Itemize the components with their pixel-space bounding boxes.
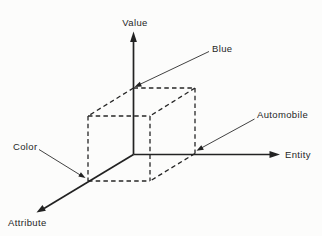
- labels: Value Entity Attribute Blue Automobile C…: [8, 17, 311, 228]
- automobile-callout-arrowhead: [197, 145, 204, 151]
- color-callout-line: [39, 150, 82, 176]
- cube-dashed-edges: [88, 88, 195, 181]
- blue-callout-arrowhead: [135, 82, 142, 87]
- dashed-cube: [88, 88, 195, 181]
- attribute-axis-label: Attribute: [8, 217, 47, 228]
- axes: [37, 32, 281, 213]
- value-axis-label: Value: [122, 17, 147, 28]
- automobile-callout-line: [200, 119, 255, 149]
- eav-axes-diagram: Value Entity Attribute Blue Automobile C…: [0, 0, 322, 236]
- blue-callout-label: Blue: [212, 43, 232, 54]
- blue-callout-line: [138, 52, 210, 86]
- callouts: [39, 52, 255, 179]
- entity-axis-label: Entity: [285, 149, 311, 160]
- attribute-axis-arrowhead: [37, 205, 46, 213]
- entity-axis-arrowhead: [270, 151, 281, 158]
- diagram-canvas: Value Entity Attribute Blue Automobile C…: [0, 0, 322, 236]
- automobile-callout-label: Automobile: [257, 109, 308, 120]
- color-callout-label: Color: [13, 141, 37, 152]
- value-axis-arrowhead: [130, 32, 137, 43]
- color-callout-arrowhead: [78, 172, 85, 178]
